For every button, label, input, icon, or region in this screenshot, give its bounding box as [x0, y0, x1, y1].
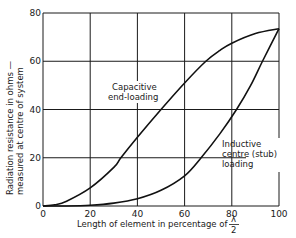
- capacitive-curve: [43, 29, 279, 206]
- x-tick-label: 100: [270, 209, 287, 219]
- x-tick-label: 0: [40, 209, 46, 219]
- capacitive-label-line1: Capacitive: [112, 82, 157, 92]
- x-axis-label-lambda: λ: [231, 214, 236, 224]
- inductive-label-line2: centre (stub): [222, 149, 277, 159]
- inductive-label-line1: Inductive: [222, 139, 261, 149]
- x-axis-label: Length of element in percentage of: [77, 219, 228, 229]
- x-tick-label: 60: [179, 209, 191, 219]
- chart: 020406080100 020406080 Capacitive end-lo…: [0, 0, 296, 238]
- inductive-curve: [43, 29, 279, 206]
- x-tick-label: 40: [132, 209, 144, 219]
- x-axis-label-two: 2: [231, 225, 236, 235]
- y-axis-label-line2: measured at centre of system: [15, 67, 25, 195]
- data-curves: [43, 29, 279, 206]
- x-tick-label: 20: [84, 209, 96, 219]
- y-tick-label: 40: [30, 105, 42, 115]
- y-tick-label: 20: [30, 153, 42, 163]
- y-axis-ticks: 020406080: [30, 8, 42, 211]
- y-tick-label: 0: [35, 201, 41, 211]
- x-axis-ticks: 020406080100: [40, 209, 288, 219]
- y-tick-label: 80: [30, 8, 42, 18]
- inductive-label-line3: loading: [222, 159, 253, 169]
- y-axis-label-line1: Radiation resistance in ohms —: [5, 60, 15, 195]
- y-tick-label: 60: [30, 56, 42, 66]
- capacitive-label-line2: end-loading: [108, 92, 158, 102]
